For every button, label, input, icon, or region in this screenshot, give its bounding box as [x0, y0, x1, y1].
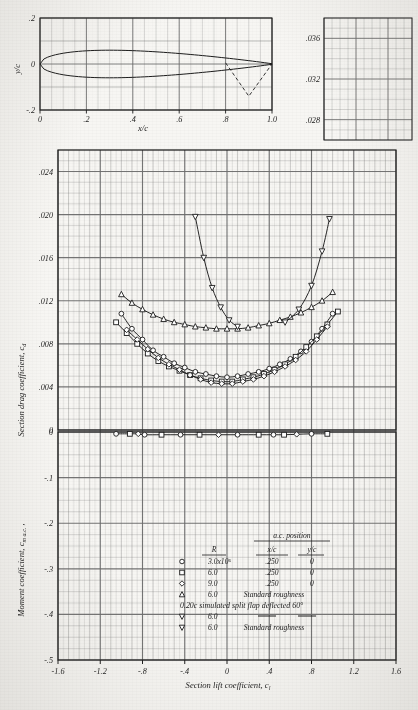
svg-text:-.5: -.5 [44, 656, 53, 665]
airfoil-data-figure: 0.2.4.6.81.0 .20-.2 x/c y/c .036.032.028… [0, 0, 418, 710]
data-point-marker [246, 372, 251, 377]
svg-text:-.4: -.4 [44, 610, 53, 619]
data-point-marker [159, 432, 164, 437]
svg-text:0: 0 [310, 557, 314, 566]
svg-text:6.0: 6.0 [208, 568, 218, 577]
svg-text:0: 0 [38, 115, 42, 124]
data-point-marker [271, 432, 276, 437]
svg-text:.2: .2 [29, 14, 35, 23]
data-point-marker [325, 431, 330, 436]
main-chart-panel: -1.6-1.2-.8-.40.4.81.21.6 .024.020.016.0… [0, 140, 418, 710]
corner-panel-grid [324, 18, 412, 140]
svg-text:1.2: 1.2 [349, 667, 359, 676]
data-point-marker [235, 432, 240, 437]
data-point-marker [282, 432, 287, 437]
svg-text:.8: .8 [308, 667, 314, 676]
x-axis-label: Section lift coefficient, cl [186, 680, 271, 691]
svg-text:.2: .2 [83, 115, 89, 124]
data-point-marker [256, 369, 261, 374]
svg-text:0: 0 [49, 428, 53, 437]
data-point-marker [309, 304, 315, 309]
profile-y-axis-label: y/c [12, 64, 22, 75]
svg-text:.036: .036 [306, 34, 321, 43]
profile-x-tick-labels: 0.2.4.6.81.0 [38, 110, 277, 124]
data-point-marker [218, 305, 224, 310]
svg-text:6.0: 6.0 [208, 612, 218, 621]
data-point-marker [179, 592, 184, 597]
svg-text:-.2: -.2 [44, 519, 53, 528]
svg-text:.6: .6 [176, 115, 183, 124]
svg-text:.020: .020 [39, 211, 53, 220]
data-point-marker [161, 354, 166, 359]
profile-x-axis-label: x/c [137, 123, 148, 133]
svg-text:R: R [211, 545, 217, 554]
data-point-marker [179, 625, 184, 630]
data-point-marker [150, 312, 156, 317]
data-point-marker [193, 369, 198, 374]
svg-text:-.8: -.8 [138, 667, 147, 676]
svg-text:.032: .032 [306, 75, 320, 84]
data-point-marker [267, 366, 272, 371]
data-point-marker [256, 432, 261, 437]
svg-text:.250: .250 [265, 568, 278, 577]
data-point-marker [319, 249, 325, 254]
svg-text:x/c: x/c [267, 545, 277, 554]
svg-text:.4: .4 [130, 115, 136, 124]
svg-text:a.c. position: a.c. position [273, 531, 311, 540]
svg-text:0: 0 [31, 60, 35, 69]
profile-grid [40, 18, 272, 110]
main-chart-grid [58, 150, 396, 660]
svg-text:-.4: -.4 [180, 667, 189, 676]
data-point-marker [180, 559, 185, 564]
svg-text:.004: .004 [39, 383, 53, 392]
svg-text:.4: .4 [266, 667, 272, 676]
data-point-marker [114, 320, 119, 325]
svg-text:.012: .012 [39, 297, 53, 306]
data-point-marker [182, 365, 187, 370]
data-point-marker [193, 214, 199, 219]
data-point-marker [336, 309, 341, 314]
profile-y-tick-labels: .20-.2 [26, 14, 35, 115]
data-point-marker [309, 283, 315, 288]
data-point-marker [179, 614, 184, 619]
svg-text:.250: .250 [265, 579, 278, 588]
airfoil-profile-panel: 0.2.4.6.81.0 .20-.2 x/c y/c [0, 0, 290, 140]
data-point-marker [225, 375, 230, 380]
moment-axis-label: Moment coefficient, cm a.c. , [16, 523, 27, 617]
data-point-marker [130, 326, 135, 331]
svg-text:0: 0 [225, 667, 229, 676]
svg-text:.008: .008 [39, 340, 53, 349]
svg-text:1.0: 1.0 [267, 115, 277, 124]
svg-text:.250: .250 [265, 557, 278, 566]
drag-axis-label: Section drag coefficient, cd [16, 343, 27, 437]
svg-text:.028: .028 [306, 116, 320, 125]
data-point-marker [140, 306, 146, 311]
corner-grid-panel: .036.032.028 [290, 0, 418, 140]
data-point-marker [114, 431, 119, 436]
data-point-marker [203, 372, 208, 377]
data-point-marker [197, 432, 202, 437]
data-point-marker [235, 374, 240, 379]
svg-text:1.6: 1.6 [391, 667, 402, 676]
svg-text:.024: .024 [39, 168, 53, 177]
data-point-marker [172, 361, 177, 366]
svg-text:0: 0 [310, 568, 314, 577]
svg-text:9.0: 9.0 [208, 579, 218, 588]
data-point-marker [119, 311, 124, 316]
svg-text:-.3: -.3 [44, 565, 53, 574]
svg-text:y/c: y/c [307, 545, 317, 554]
data-point-marker [180, 570, 185, 575]
svg-text:-1.6: -1.6 [52, 667, 66, 676]
drag-axis-tick-labels: .024.020.016.012.008.0040 [39, 168, 54, 435]
data-point-marker [178, 432, 183, 437]
svg-text:6.0: 6.0 [208, 590, 218, 599]
svg-text:6.0: 6.0 [208, 623, 218, 632]
svg-text:-1.2: -1.2 [94, 667, 107, 676]
svg-text:3.0x10⁶: 3.0x10⁶ [207, 557, 231, 566]
data-point-marker [140, 337, 145, 342]
svg-text:-.2: -.2 [26, 106, 35, 115]
svg-text:0.20c simulated split flap def: 0.20c simulated split flap deflected 60° [180, 601, 304, 610]
svg-text:-.1: -.1 [44, 474, 53, 483]
data-point-marker [142, 432, 147, 437]
data-point-marker [119, 291, 125, 296]
